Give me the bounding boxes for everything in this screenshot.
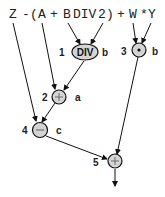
edge-y-to-3 — [142, 23, 151, 43]
node-3-number: 3 — [121, 46, 127, 57]
token-lparen: ( — [30, 7, 38, 22]
token-plus-1: + — [50, 7, 58, 22]
token-2: 2 — [98, 7, 106, 22]
token-minus: - — [22, 7, 30, 22]
expression-text: Z - ( A + B DIV 2 ) + W * Y — [9, 7, 156, 22]
edge-w-to-3 — [133, 23, 136, 43]
token-z: Z — [9, 7, 17, 22]
token-div: DIV — [73, 7, 97, 22]
edge-b-to-1 — [68, 23, 80, 44]
node-1-number: 1 — [59, 47, 65, 58]
edge-2-to-1 — [91, 23, 103, 44]
node-3-result: b — [152, 46, 158, 57]
edge-a-to-2 — [42, 23, 55, 89]
edge-2-to-4 — [42, 103, 55, 122]
node-4-number: 4 — [22, 125, 28, 136]
node-4-minus: 4 c — [22, 123, 62, 138]
node-2-number: 2 — [42, 92, 48, 103]
token-plus-2: + — [117, 7, 125, 22]
node-2-plus: 2 a — [42, 90, 81, 104]
node-5-plus: 5 — [93, 154, 122, 168]
token-w: W — [129, 7, 137, 22]
edge-4-to-5 — [46, 136, 107, 159]
edge-1-to-2 — [64, 61, 84, 90]
node-4-result: c — [56, 125, 62, 136]
token-star: * — [140, 7, 148, 22]
multiply-dot-icon — [137, 48, 140, 51]
node-2-result: a — [75, 92, 81, 103]
token-rparen: ) — [106, 7, 114, 22]
node-1-result: b — [102, 47, 108, 58]
token-y: Y — [148, 7, 156, 22]
token-b: B — [63, 7, 71, 22]
edge-3-to-5 — [117, 57, 138, 154]
node-1-div: DIV 1 b — [59, 44, 108, 60]
node-5-number: 5 — [93, 157, 99, 168]
edge-z-to-4 — [13, 23, 36, 121]
node-3-multiply: 3 b — [121, 43, 158, 57]
token-a: A — [38, 7, 46, 22]
expression-tree-diagram: Z - ( A + B DIV 2 ) + W * Y DIV 1 b — [0, 0, 165, 197]
node-1-op: DIV — [77, 47, 94, 58]
